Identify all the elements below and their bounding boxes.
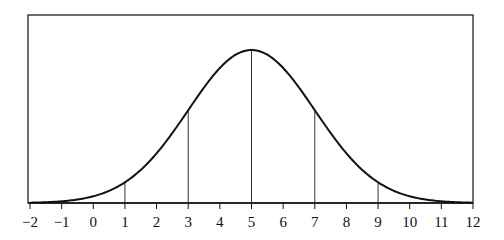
x-tick-label: −1 (54, 214, 70, 230)
sigma-vertical-lines (125, 50, 378, 203)
x-tick-label: 0 (90, 214, 98, 230)
x-tick-label: 3 (184, 214, 192, 230)
x-axis-ticks: −2−10123456789101112 (22, 203, 480, 230)
x-tick-label: 7 (311, 214, 319, 230)
x-tick-label: 8 (343, 214, 351, 230)
normal-curve-chart: −2−10123456789101112 (0, 0, 504, 240)
x-tick-label: 9 (374, 214, 382, 230)
x-tick-label: 1 (121, 214, 129, 230)
x-tick-label: 6 (279, 214, 287, 230)
x-tick-label: 4 (216, 214, 224, 230)
x-tick-label: 10 (402, 214, 417, 230)
plot-frame (28, 15, 473, 203)
x-tick-label: 5 (248, 214, 256, 230)
x-tick-label: 2 (153, 214, 161, 230)
x-tick-label: 12 (466, 214, 481, 230)
x-tick-label: 11 (434, 214, 448, 230)
x-tick-label: −2 (22, 214, 38, 230)
